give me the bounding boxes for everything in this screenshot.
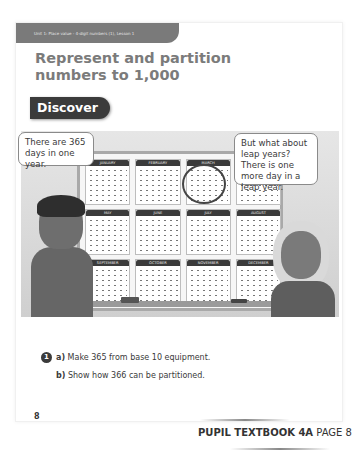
footer-label: PUPIL TEXTBOOK 4A PAGE 8 — [198, 427, 352, 438]
february-circle-highlight — [182, 164, 226, 204]
speech-bubble-girl: But what about leap years? There is one … — [234, 133, 318, 185]
textbook-page: Unit 1: Place value - 4-digit numbers (1… — [15, 22, 343, 422]
boy-character — [29, 199, 95, 317]
girl-character — [269, 221, 339, 317]
footer-divider — [200, 419, 290, 421]
month-calendar: NOVEMBER — [186, 259, 231, 305]
month-calendar: FEBRUARY — [135, 159, 180, 205]
discover-badge: Discover — [30, 97, 110, 119]
question-part-a: a) Make 365 from base 10 equipment. — [56, 353, 210, 362]
month-calendar: JUNE — [135, 209, 180, 255]
unit-header-tab: Unit 1: Place value - 4-digit numbers (1… — [16, 23, 179, 43]
marker-icon — [121, 297, 139, 303]
whiteboard-tray — [71, 301, 291, 307]
question-part-b: b) Show how 366 can be partitioned. — [56, 371, 205, 380]
page-title: Represent and partition numbers to 1,000 — [35, 50, 295, 84]
month-calendar: JULY — [186, 209, 231, 255]
month-calendar: OCTOBER — [135, 259, 180, 305]
eraser-icon — [231, 299, 247, 303]
unit-label: Unit 1: Place value - 4-digit numbers (1… — [34, 31, 134, 36]
question-number: 1 — [41, 352, 52, 363]
page-number: 8 — [34, 412, 40, 421]
speech-bubble-boy: There are 365 days in one year. — [18, 132, 94, 166]
footer-divider — [230, 448, 330, 450]
